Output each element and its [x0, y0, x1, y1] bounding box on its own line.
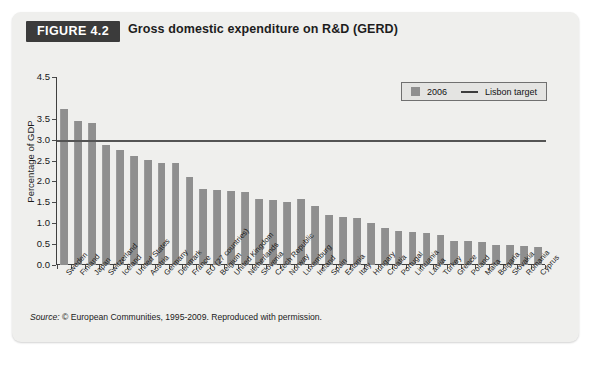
legend-label-lisbon-target: Lisbon target — [485, 87, 537, 97]
figure-number-badge: FIGURE 4.2 — [26, 21, 120, 42]
bar — [172, 163, 180, 265]
chart-legend: 2006 Lisbon target — [401, 82, 547, 101]
y-tick-label: 3.5 — [26, 114, 50, 124]
source-label: Source: — [30, 312, 60, 322]
lisbon-target-reference-line — [57, 140, 546, 142]
source-note: Source: © European Communities, 1995-200… — [30, 312, 322, 322]
y-tick-label: 1.5 — [26, 197, 50, 207]
bar — [116, 150, 124, 265]
bar — [74, 121, 82, 265]
x-axis-category-labels: SwedenFinlandJapanSwitzerlandIcelandUnit… — [12, 269, 579, 339]
y-tick-label: 2.5 — [26, 156, 50, 166]
y-tick-label: 2.0 — [26, 176, 50, 186]
y-tick-label: 1.0 — [26, 218, 50, 228]
figure-header: FIGURE 4.2 Gross domestic expenditure on… — [12, 12, 579, 52]
y-tick-label: 3.0 — [26, 135, 50, 145]
y-tick-label: 0.5 — [26, 239, 50, 249]
legend-label-2006: 2006 — [427, 87, 447, 97]
legend-swatch-2006-icon — [411, 87, 420, 96]
y-tick-label: 4.5 — [26, 72, 50, 82]
legend-line-lisbon-target-icon — [461, 91, 478, 93]
source-text: © European Communities, 1995-2009. Repro… — [60, 312, 322, 322]
y-tick-mark — [52, 265, 56, 266]
bar — [88, 123, 96, 265]
bar — [144, 160, 152, 265]
chart-plot-area: Percentage of GDP 0.00.51.01.52.02.53.03… — [12, 52, 579, 342]
bar-series-2006 — [57, 77, 545, 265]
figure-card: FIGURE 4.2 Gross domestic expenditure on… — [12, 12, 579, 342]
bar — [102, 145, 110, 265]
figure-title: Gross domestic expenditure on R&D (GERD) — [128, 22, 398, 36]
bar — [367, 223, 375, 265]
bar — [60, 109, 68, 265]
